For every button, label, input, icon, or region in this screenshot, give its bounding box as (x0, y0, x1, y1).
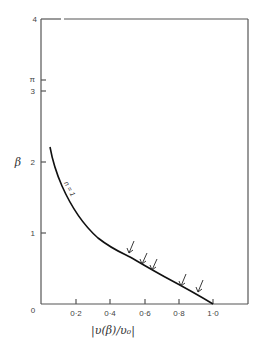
arrow-markers (127, 241, 203, 292)
arrow-icon (179, 274, 186, 286)
y-tick-label-3: 3 (31, 87, 36, 96)
x-axis-title: |υ(β)/υ₀| (91, 324, 135, 338)
curve-label: n = 1 (63, 180, 77, 197)
y-tick-label-2: 2 (31, 158, 36, 167)
chart-svg: 1 2 3 π 4 0 0·2 0·4 0·6 0·8 1·0 β |υ(β)/… (0, 0, 261, 346)
origin-label: 0 (31, 306, 36, 315)
x-tick-label-10: 1·0 (207, 309, 219, 318)
arrow-icon (150, 259, 157, 270)
arrow-icon (127, 241, 134, 253)
y-tick-label-1: 1 (31, 229, 36, 238)
y-axis-title: β (14, 156, 21, 169)
x-tick-label-06: 0·6 (139, 309, 151, 318)
arrow-icon (196, 280, 203, 292)
chart-figure: 1 2 3 π 4 0 0·2 0·4 0·6 0·8 1·0 β |υ(β)/… (0, 0, 261, 346)
y-ticks (41, 80, 46, 233)
x-tick-label-04: 0·4 (104, 309, 116, 318)
plot-frame (41, 19, 248, 304)
arrow-icon (140, 253, 147, 264)
x-tick-labels: 0 0·2 0·4 0·6 0·8 1·0 (31, 306, 220, 318)
y-tick-label-pi: π (29, 75, 35, 84)
x-tick-label-02: 0·2 (70, 309, 82, 318)
x-ticks (76, 299, 213, 304)
x-tick-label-08: 0·8 (173, 309, 185, 318)
curve-n1 (50, 147, 213, 304)
y-tick-labels: 1 2 3 π 4 (29, 15, 37, 238)
y-tick-label-4: 4 (33, 15, 38, 24)
